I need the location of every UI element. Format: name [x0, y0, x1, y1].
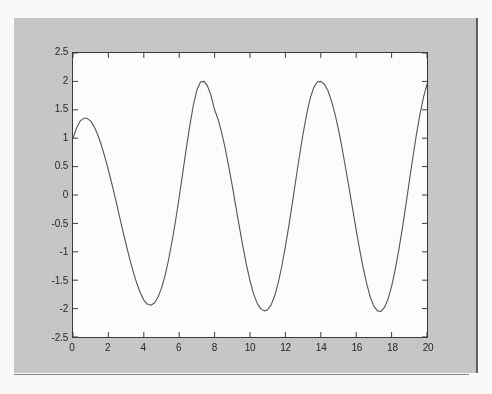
plot-axes — [72, 52, 428, 338]
tick-marks — [73, 53, 427, 337]
data-series-line — [73, 81, 427, 311]
plot-canvas — [73, 53, 427, 337]
matlab-figure-screenshot: -2.5-2-1.5-1-0.500.511.522.5 02468101214… — [0, 0, 492, 394]
figure-bottom-rule — [14, 374, 469, 375]
